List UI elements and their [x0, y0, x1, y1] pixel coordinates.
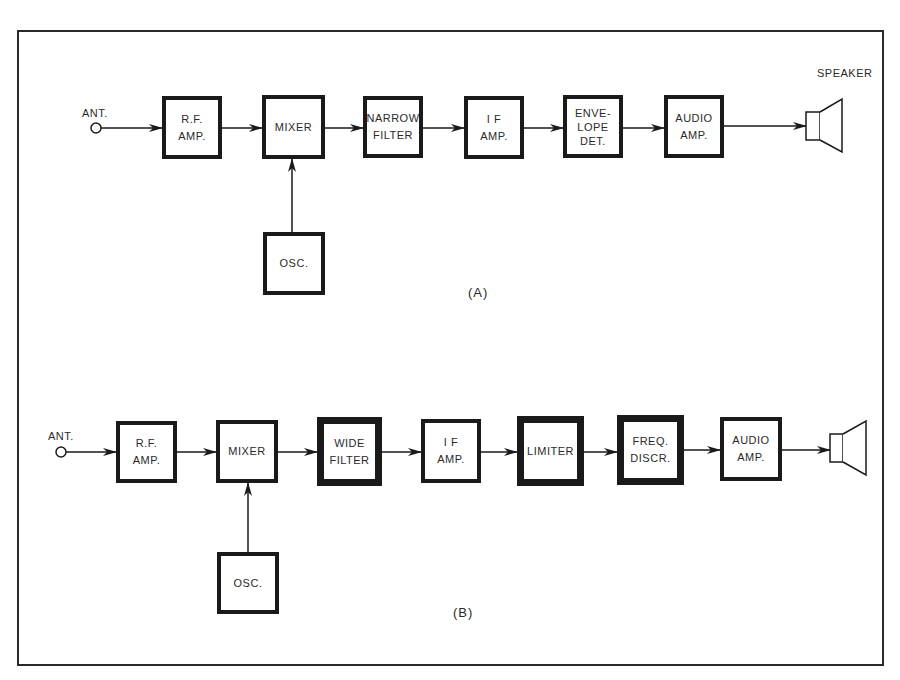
- block-b-freq-discr: FREQ. DISCR.: [617, 415, 684, 485]
- caption-a: (A): [468, 285, 488, 300]
- connection-wires: [0, 0, 900, 680]
- speaker-b-icon: [830, 421, 866, 475]
- antenna-b-label: ANT.: [48, 430, 74, 442]
- block-b-osc: OSC.: [217, 552, 279, 614]
- block-b-audio-amp: AUDIO AMP.: [720, 417, 782, 481]
- block-a-envelope-det: ENVE- LOPE DET.: [563, 95, 623, 158]
- antenna-b-icon: [56, 447, 66, 457]
- block-b-mixer: MIXER: [216, 420, 278, 483]
- speaker-a-icon: [806, 99, 842, 152]
- block-a-audio-amp: AUDIO AMP.: [664, 95, 724, 158]
- caption-b: (B): [453, 605, 473, 620]
- antenna-a-label: ANT.: [82, 107, 108, 119]
- block-b-if-amp: I F AMP.: [421, 419, 481, 483]
- antenna-a-icon: [91, 123, 101, 133]
- block-b-wide-filter: WIDE FILTER: [317, 417, 382, 486]
- block-b-limiter: LIMITER: [517, 416, 584, 486]
- block-b-rf-amp: R.F. AMP.: [116, 421, 177, 483]
- block-a-mixer: MIXER: [262, 95, 325, 159]
- block-a-rf-amp: R.F. AMP.: [162, 96, 222, 159]
- block-a-osc: OSC.: [263, 232, 325, 295]
- block-a-if-amp: I F AMP.: [464, 96, 524, 159]
- speaker-label: SPEAKER: [817, 67, 872, 79]
- block-a-narrow-filter: NARROW FILTER: [363, 96, 423, 158]
